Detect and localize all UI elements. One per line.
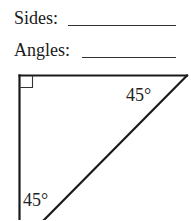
right-angle-icon: [20, 76, 33, 88]
angle-label-bottom-left: 45°: [23, 190, 48, 210]
hypotenuse: [42, 76, 187, 221]
angle-label-top-right: 45°: [126, 85, 151, 105]
triangle-figure: 45° 45°: [0, 0, 191, 220]
